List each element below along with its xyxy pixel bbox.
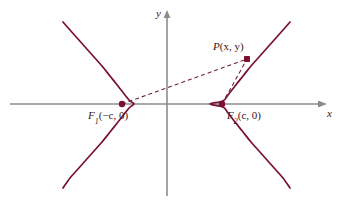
focal-radius-f1-to-p: [122, 59, 247, 104]
focus-left-label: F1(−c, 0): [88, 110, 128, 124]
point-p-coords: (x, y): [220, 40, 244, 52]
focus-right-label: F2(c, 0): [227, 110, 261, 124]
focal-radius-f2-to-p: [222, 59, 247, 104]
point-p-label: P(x, y): [213, 41, 244, 52]
focus-right-coords: (c, 0): [238, 109, 261, 121]
focus-right-name: F: [227, 109, 234, 121]
focal-radii-group: [122, 59, 247, 104]
hyperbola-diagram-svg: [0, 0, 343, 203]
point-p-marker: [244, 56, 250, 62]
x-axis-arrowhead: [318, 101, 327, 108]
y-axis-arrowhead: [164, 10, 171, 18]
focus-left-coords: (−c, 0): [99, 109, 128, 121]
focus-left-subscript: 1: [95, 117, 99, 126]
focus-right-point: [219, 101, 225, 107]
axes-group: [10, 10, 327, 196]
hyperbola-figure: y x F1(−c, 0) F2(c, 0) P(x, y): [0, 0, 343, 203]
focus-right-subscript: 2: [234, 117, 238, 126]
y-axis-label: y: [156, 8, 161, 19]
point-p-name: P: [213, 40, 220, 52]
focus-left-point: [119, 101, 125, 107]
focus-left-name: F: [88, 109, 95, 121]
x-axis-label: x: [327, 108, 332, 119]
hyperbola-curves: [63, 22, 290, 188]
